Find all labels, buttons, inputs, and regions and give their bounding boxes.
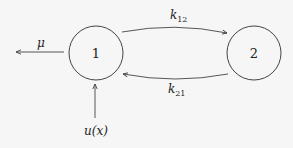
edge-input: u(x) (84, 84, 108, 138)
input-label: u(x) (84, 124, 108, 138)
k21-label: k21 (168, 82, 185, 98)
edge-mu: μ (16, 36, 64, 52)
arrow-left-icon (123, 74, 228, 79)
compartment-1-label: 1 (92, 46, 100, 61)
diagram-svg: 1 2 k12 k21 μ u(x) (0, 0, 293, 148)
edge-k12: k12 (122, 8, 227, 33)
k12-label: k12 (170, 8, 187, 24)
compartment-diagram: 1 2 k12 k21 μ u(x) (0, 0, 293, 148)
edge-k21: k21 (123, 74, 228, 98)
compartment-2: 2 (227, 26, 281, 80)
compartment-2-label: 2 (250, 46, 258, 61)
compartment-1: 1 (69, 26, 123, 80)
mu-label: μ (37, 36, 45, 50)
arrow-right-icon (122, 27, 227, 33)
